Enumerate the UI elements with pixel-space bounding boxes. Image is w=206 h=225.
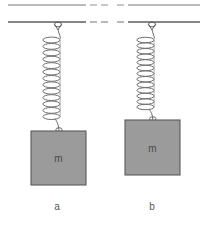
spring-mass-figure: m	[0, 0, 206, 225]
system-a: m	[31, 22, 86, 185]
caption-a: a	[47, 201, 67, 213]
diagram-canvas: m	[0, 0, 206, 225]
spring-top-wire-b	[152, 30, 155, 39]
spring-b	[137, 37, 154, 109]
mass-label-a: m	[54, 153, 62, 164]
mass-label-b: m	[148, 143, 156, 154]
ceiling-hook-b	[148, 22, 155, 30]
system-b: m	[125, 22, 180, 175]
spring-a	[43, 37, 60, 119]
caption-b: b	[142, 201, 162, 213]
ceiling-hook-a	[54, 22, 61, 30]
spring-top-wire-a	[58, 30, 61, 39]
